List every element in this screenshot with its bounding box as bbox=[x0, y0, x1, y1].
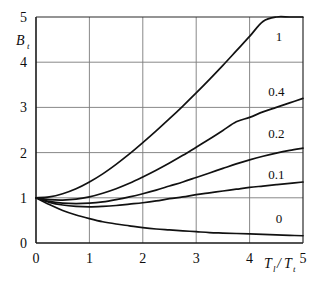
x-tick-label: 2 bbox=[139, 251, 146, 266]
x-tick-label: 5 bbox=[300, 251, 307, 266]
curve-label: 1 bbox=[276, 29, 283, 44]
y-tick-label: 0 bbox=[20, 236, 27, 251]
curve-label: 0.4 bbox=[268, 84, 285, 99]
chart-background bbox=[0, 0, 322, 284]
y-tick-label: 5 bbox=[20, 10, 27, 25]
y-tick-label: 2 bbox=[20, 146, 27, 161]
x-tick-label: 1 bbox=[86, 251, 93, 266]
x-tick-label: 3 bbox=[193, 251, 200, 266]
curve-label: 0.1 bbox=[268, 167, 284, 182]
x-axis-title-denominator: T bbox=[284, 256, 293, 271]
y-axis-title-main: B bbox=[16, 33, 25, 48]
x-tick-label: 0 bbox=[33, 251, 40, 266]
y-tick-label: 4 bbox=[20, 55, 27, 70]
y-tick-label: 3 bbox=[20, 100, 27, 115]
x-tick-label: 4 bbox=[246, 251, 253, 266]
chart-figure: 012345 012345 10.40.20.10 B t T l / T t bbox=[0, 0, 322, 284]
curve-label: 0.2 bbox=[268, 126, 284, 141]
x-axis-title-numerator: T bbox=[264, 256, 273, 271]
line-chart: 012345 012345 10.40.20.10 B t T l / T t bbox=[0, 0, 322, 284]
y-tick-label: 1 bbox=[20, 191, 27, 206]
curve-label: 0 bbox=[276, 211, 283, 226]
